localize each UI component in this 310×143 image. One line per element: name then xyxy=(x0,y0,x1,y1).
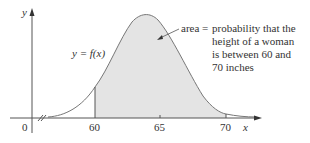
normal-distribution-diagram: y x 0 60 65 70 y = f(x) area = probabili… xyxy=(0,0,310,143)
tick-65: 65 xyxy=(154,121,166,133)
curve-label: y = f(x) xyxy=(71,47,105,60)
annotation-prefix: area = xyxy=(181,22,208,34)
annotation-line-2: height of a woman xyxy=(212,35,295,47)
tick-70: 70 xyxy=(220,121,232,133)
annotation-line-1: probability that the xyxy=(212,22,296,34)
x-axis-arrow-icon xyxy=(254,116,262,121)
annotation-line-3: is between 60 and xyxy=(212,48,292,60)
y-axis-label: y xyxy=(21,6,27,18)
y-axis-arrow-icon xyxy=(30,8,35,16)
tick-60: 60 xyxy=(89,121,101,133)
x-axis-label: x xyxy=(242,121,248,133)
origin-label: 0 xyxy=(22,121,28,133)
annotation-line-4: 70 inches xyxy=(212,61,254,73)
